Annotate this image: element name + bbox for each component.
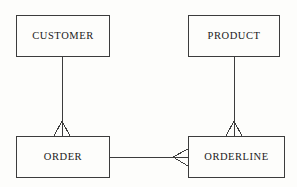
entity-box-customer[interactable]: CUSTOMER [16,15,110,57]
entity-label-product: PRODUCT [208,31,261,42]
crow-foot-bottom-order-orderline [173,157,188,166]
entity-box-product[interactable]: PRODUCT [188,15,280,57]
entity-label-customer: CUSTOMER [32,31,93,42]
er-diagram-canvas: CUSTOMER PRODUCT ORDER ORDERLINE [0,0,297,187]
entity-box-orderline[interactable]: ORDERLINE [188,136,285,178]
crow-foot-top-order-orderline [173,149,188,157]
crow-foot-left-product-orderline [226,121,234,136]
entity-label-order: ORDER [44,152,82,163]
entity-box-order[interactable]: ORDER [16,136,110,178]
crow-foot-left-customer-order [54,121,62,136]
crow-foot-right-product-orderline [234,121,242,136]
crow-foot-right-customer-order [62,121,70,136]
entity-label-orderline: ORDERLINE [204,152,268,163]
